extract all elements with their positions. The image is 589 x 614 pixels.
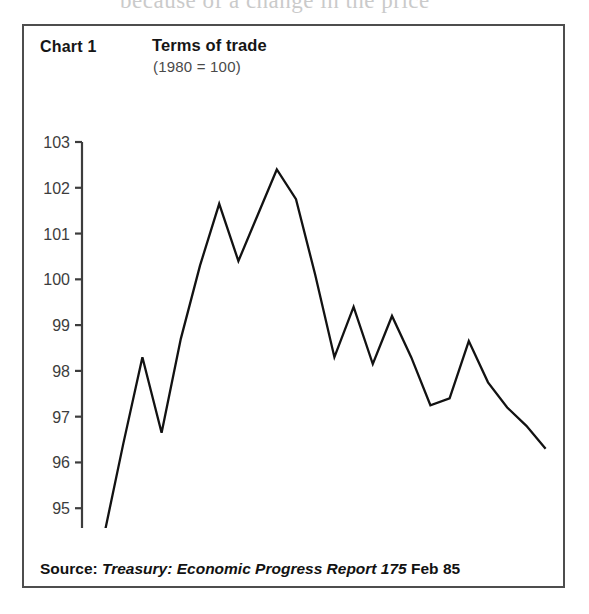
- chart-number-label: Chart 1: [40, 38, 97, 56]
- chart-title: Terms of trade: [152, 36, 267, 55]
- y-axis-tick-label: 97: [52, 409, 70, 426]
- y-axis-tick-label: 99: [52, 317, 70, 334]
- source-separator: :: [93, 560, 102, 577]
- y-axis-tick-label: 98: [52, 363, 70, 380]
- chart-frame: Chart 1 Terms of trade (1980 = 100) 9495…: [22, 24, 565, 588]
- y-axis-tick-label: 102: [43, 180, 70, 197]
- y-axis-tick-label: 95: [52, 500, 70, 517]
- terms-of-trade-line-chart: 949596979899100101102103 197919801981198…: [24, 88, 563, 528]
- y-axis-tick-label: 101: [43, 226, 70, 243]
- y-axis-tick-label: 100: [43, 271, 70, 288]
- source-note: Source: Treasury: Economic Progress Repo…: [40, 560, 460, 578]
- chart-subtitle: (1980 = 100): [153, 58, 241, 75]
- y-axis: 949596979899100101102103: [43, 134, 82, 528]
- terms-of-trade-line: [104, 169, 546, 528]
- y-axis-tick-label: 96: [52, 454, 70, 471]
- source-date-value: Feb 85: [411, 560, 460, 577]
- source-publication: Treasury: Economic Progress Report 175: [102, 560, 407, 577]
- plot-area: 949596979899100101102103 197919801981198…: [24, 88, 563, 528]
- y-axis-tick-label: 103: [43, 134, 70, 151]
- data-series-group: [104, 169, 546, 528]
- page-bleed-text: because of a change in the price: [120, 0, 480, 14]
- source-label: Source: [40, 560, 93, 577]
- chart-header: Chart 1 Terms of trade (1980 = 100): [40, 36, 555, 88]
